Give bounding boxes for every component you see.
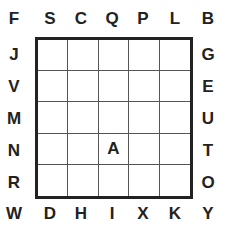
grid-cell[interactable] [68,165,98,196]
letter-grid: A [35,37,193,199]
top-label: C [69,9,93,29]
top-label: S [38,9,62,29]
grid-cell[interactable] [38,102,68,133]
grid-cell-filled[interactable]: A [99,134,129,165]
grid-cell[interactable] [129,165,159,196]
grid-cell[interactable] [99,102,129,133]
left-label: R [2,173,26,193]
grid-cell[interactable] [160,102,190,133]
grid-cell[interactable] [38,40,68,71]
corner-bottom-right: Y [196,204,220,224]
right-label: U [196,109,220,129]
left-label: M [2,109,26,129]
grid-cell[interactable] [160,134,190,165]
grid-cell[interactable] [129,40,159,71]
right-label: E [196,77,220,97]
corner-top-left: F [2,9,26,29]
grid-cell[interactable] [99,40,129,71]
corner-bottom-left: W [2,204,26,224]
left-label: N [2,141,26,161]
grid-cell[interactable] [160,165,190,196]
grid-cell[interactable] [38,165,68,196]
bottom-label: H [69,204,93,224]
grid-cell[interactable] [99,71,129,102]
top-label: Q [100,9,124,29]
top-label: L [163,9,187,29]
grid-cell[interactable] [38,134,68,165]
grid-cell[interactable] [129,134,159,165]
top-label: P [131,9,155,29]
bottom-label: D [38,204,62,224]
grid-cell[interactable] [129,71,159,102]
bottom-label: K [163,204,187,224]
bottom-label: X [131,204,155,224]
grid-cell[interactable] [38,71,68,102]
right-label: T [196,141,220,161]
grid-cell[interactable] [68,102,98,133]
grid-cell[interactable] [160,40,190,71]
grid-cell[interactable] [129,102,159,133]
left-label: J [2,45,26,65]
grid-cell[interactable] [68,40,98,71]
bottom-label: I [100,204,124,224]
grid-cell[interactable] [160,71,190,102]
grid-cell[interactable] [68,134,98,165]
right-label: G [196,45,220,65]
grid-cell[interactable] [68,71,98,102]
right-label: O [196,173,220,193]
grid-cell[interactable] [99,165,129,196]
left-label: V [2,77,26,97]
corner-top-right: B [196,9,220,29]
